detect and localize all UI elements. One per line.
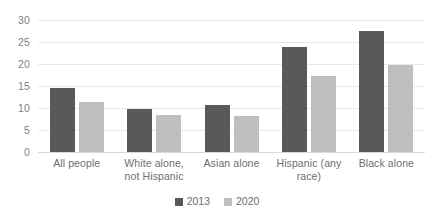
- legend-swatch-icon: [224, 198, 232, 206]
- y-axis-tick-label: 25: [0, 37, 30, 47]
- bar-2020[interactable]: [311, 76, 336, 152]
- bar-groups: [38, 20, 425, 152]
- y-axis-tick-label: 15: [0, 81, 30, 91]
- bar-2013[interactable]: [127, 109, 152, 152]
- bar-chart: 302520151050 All peopleWhite alone, not …: [0, 0, 434, 218]
- bar-2013[interactable]: [205, 105, 230, 152]
- legend-label: 2020: [236, 196, 259, 207]
- y-axis-tick-label: 0: [0, 147, 30, 157]
- legend-item[interactable]: 2020: [224, 196, 259, 207]
- y-axis-tick-label: 10: [0, 103, 30, 113]
- chart-legend: 20132020: [0, 196, 434, 207]
- bar-2020[interactable]: [388, 65, 413, 152]
- x-axis-category-label: Hispanic (any race): [270, 157, 347, 183]
- bar-group: [348, 20, 425, 152]
- y-axis-tick-label: 20: [0, 59, 30, 69]
- legend-label: 2013: [187, 196, 210, 207]
- x-axis-category-labels: All peopleWhite alone, not HispanicAsian…: [38, 157, 425, 183]
- y-axis-tick-label: 30: [0, 15, 30, 25]
- y-axis-tick-label: 5: [0, 125, 30, 135]
- plot-area: [38, 20, 425, 152]
- bar-2020[interactable]: [79, 102, 104, 152]
- bar-2020[interactable]: [156, 115, 181, 152]
- bar-group: [193, 20, 270, 152]
- bar-2020[interactable]: [234, 116, 259, 152]
- y-axis: 302520151050: [0, 0, 32, 218]
- bar-2013[interactable]: [282, 47, 307, 152]
- bar-2013[interactable]: [50, 88, 75, 152]
- axis-baseline: [38, 152, 425, 153]
- x-axis-category-label: Asian alone: [193, 157, 270, 183]
- bar-group: [270, 20, 347, 152]
- bar-2013[interactable]: [359, 31, 384, 152]
- bar-group: [115, 20, 192, 152]
- bar-group: [38, 20, 115, 152]
- x-axis-category-label: All people: [38, 157, 115, 183]
- legend-item[interactable]: 2013: [175, 196, 210, 207]
- x-axis-category-label: White alone, not Hispanic: [115, 157, 192, 183]
- legend-swatch-icon: [175, 198, 183, 206]
- x-axis-category-label: Black alone: [348, 157, 425, 183]
